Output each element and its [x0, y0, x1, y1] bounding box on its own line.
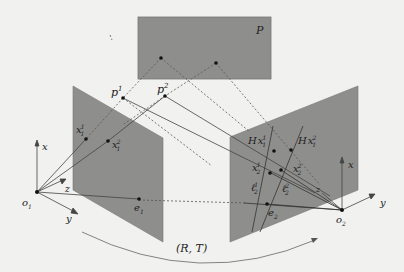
hx1-2-label: Hx21 [297, 134, 316, 148]
plane-p [138, 17, 271, 79]
l2-1-label: ℓ12 [251, 181, 258, 195]
right-axis-y-label: y [379, 197, 386, 208]
motion-label: (R, T) [176, 242, 207, 255]
plane-p-label: P [255, 24, 264, 37]
right-axis-z-label: z [315, 185, 321, 194]
epipolar-geometry-diagram: P [0, 0, 404, 272]
left-axis-z-label: z [64, 184, 70, 194]
hx1-1-label: Hx11 [247, 134, 266, 148]
x2-2-label: x22 [293, 162, 302, 176]
x1-2-label: x21 [112, 138, 121, 152]
x2-1-label: x12 [252, 161, 260, 175]
p2-label: p2 [157, 82, 169, 96]
left-axis-x-label: x [42, 141, 48, 152]
right-axis-x-label: x [348, 159, 354, 170]
left-image-plane [73, 86, 163, 242]
o1-label: o1 [22, 197, 32, 210]
x1-1-label: x11 [76, 123, 84, 137]
left-axis-y-label: y [65, 213, 72, 224]
o2-label: o2 [336, 214, 346, 227]
p1-label: p1 [111, 85, 123, 99]
l2-2-label: ℓ22 [282, 182, 289, 196]
